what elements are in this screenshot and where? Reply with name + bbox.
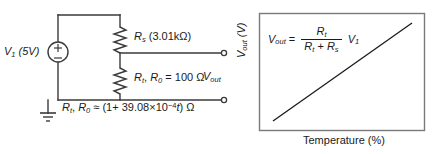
series-resistor-symbol — [114, 27, 126, 53]
formula-den-b-symbol: R — [327, 40, 335, 52]
ground-icon — [40, 113, 56, 121]
y-axis-subscript: out — [240, 40, 249, 50]
y-axis-symbol: V — [235, 51, 247, 58]
temp-eq-comma: , — [72, 101, 75, 113]
series-resistor-symbol-text: R — [134, 30, 142, 42]
output-terminal-negative — [221, 97, 226, 102]
source-label: V1 (5V) — [4, 46, 39, 58]
figure-root: V1 (5V) Rs (3.01kΩ) Rt, R0 = 100 Ω Rt, R… — [0, 0, 447, 154]
formula-den-a-subscript: t — [312, 45, 314, 54]
chart-y-axis-label: Vout (V) — [236, 0, 248, 58]
thermistor-comma: , — [144, 71, 147, 83]
output-terminal-positive — [221, 50, 226, 55]
formula-equals: = — [289, 33, 295, 45]
formula-num-subscript: t — [324, 30, 326, 39]
thermistor-subscript-b: 0 — [158, 76, 162, 85]
formula-multiplier-subscript: 1 — [355, 37, 359, 46]
chart-x-axis-label: Temperature (%) — [303, 135, 385, 146]
formula-fraction: Rt Rt + Rs — [301, 26, 341, 53]
chart-formula: Vout = Rt Rt + Rs V1 — [268, 26, 359, 53]
output-voltage-subscript: out — [210, 75, 220, 84]
series-resistor-subscript: s — [142, 35, 146, 44]
formula-multiplier-symbol: V — [348, 33, 355, 45]
thermistor-resistor-symbol — [114, 68, 126, 94]
temperature-equation-label: Rt, R0 ≈ (1+ 39.08×10−4t) Ω — [62, 102, 194, 114]
series-resistor-label: Rs (3.01kΩ) — [134, 31, 191, 43]
thermistor-relation: = 100 Ω — [165, 71, 204, 83]
temp-eq-symbol-a: R — [62, 101, 70, 113]
formula-lhs-subscript: out — [275, 37, 285, 46]
formula-den-b-subscript: s — [335, 45, 339, 54]
source-subscript: 1 — [11, 50, 15, 59]
y-axis-unit: (V) — [235, 23, 247, 38]
formula-denominator: Rt + Rs — [301, 39, 341, 53]
thermistor-label: Rt, R0 = 100 Ω — [134, 72, 204, 84]
temp-eq-expr-open: (1+ 39.08×10 — [102, 101, 167, 113]
series-resistor-value: (3.01kΩ) — [149, 30, 191, 42]
source-value: (5V) — [19, 45, 40, 57]
output-voltage-label: Vout — [203, 71, 221, 83]
temp-eq-expr-close: ) Ω — [179, 101, 194, 113]
formula-numerator: Rt — [301, 26, 341, 39]
formula-den-plus: + — [317, 40, 323, 52]
thermistor-symbol-b: R — [150, 71, 158, 83]
temp-eq-approx: ≈ — [93, 101, 99, 113]
thermistor-symbol-a: R — [134, 71, 142, 83]
temp-eq-symbol-b: R — [78, 101, 86, 113]
temp-eq-subscript-b: 0 — [86, 106, 90, 115]
figure-vector-layer — [0, 0, 447, 154]
